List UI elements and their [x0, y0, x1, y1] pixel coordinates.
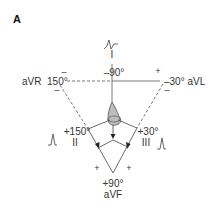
lead-avf-label: aVF	[104, 189, 122, 200]
lead-avl-label: –30° aVL	[164, 76, 206, 87]
sign-top-right: +	[155, 66, 160, 76]
axis-right-dashed	[137, 84, 163, 128]
lead-avr-label: aVR 150°	[22, 76, 68, 87]
lead-avf-angle: +90°	[103, 178, 124, 189]
vector-left	[88, 120, 110, 129]
lead-ii-angle: +150°	[64, 126, 91, 137]
lead-iii-axis	[113, 128, 137, 173]
lead-iii-label: III	[142, 137, 150, 148]
lead-iii-angle: +30°	[138, 126, 159, 137]
lead-ii-label: II	[72, 137, 78, 148]
panel-label: A	[13, 13, 21, 25]
inner-chevron	[98, 140, 128, 148]
sign-bottom-right: +	[126, 163, 131, 173]
axis-left-dashed	[60, 85, 88, 129]
vector-right	[118, 120, 137, 128]
lead-iii-waveform-icon	[157, 138, 166, 149]
lead-i-label: I	[111, 49, 114, 60]
lead-i-angle: –90°	[104, 67, 125, 78]
lead-ii-axis	[88, 129, 113, 173]
arrow-center-icon	[111, 134, 116, 139]
lead-i-waveform-icon	[104, 40, 118, 49]
sign-bottom-left: +	[94, 163, 99, 173]
hexaxial-diagram: A I –90° – + – – + + aVR 150° –30° aVL +…	[0, 0, 212, 209]
lead-ii-waveform-icon	[48, 134, 57, 145]
